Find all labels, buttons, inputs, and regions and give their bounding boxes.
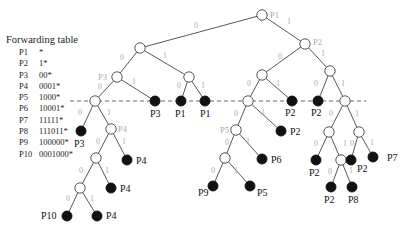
leaf-prefix-label: P3 — [74, 138, 85, 149]
leaf-prefix-label: P2 — [324, 194, 335, 205]
edge-bit-label: 0 — [79, 166, 83, 175]
edge-bit-label: 0 — [329, 109, 333, 118]
leaf-node-icon — [287, 96, 297, 106]
trie-edge — [262, 15, 305, 44]
leaf-node-icon — [208, 181, 218, 191]
stored-prefix-label: P1 — [270, 10, 279, 20]
leaf-prefix-label: P9 — [198, 187, 209, 198]
edge-bit-label: 1 — [122, 137, 126, 146]
internal-node-icon — [231, 125, 241, 135]
edge-bit-label: 1 — [276, 79, 280, 88]
edge-bit-label: 1 — [341, 79, 345, 88]
leaf-prefix-label: P1 — [175, 108, 186, 119]
leaf-node-icon — [276, 126, 286, 136]
internal-node-icon — [243, 96, 253, 106]
internal-node-icon — [106, 124, 116, 134]
edge-bit-label: 1 — [234, 166, 238, 175]
edge-bit-label: 1 — [105, 166, 109, 175]
edge-bit-label: 1 — [370, 138, 374, 147]
internal-node-icon — [324, 127, 334, 137]
edge-bit-label: 0 — [278, 52, 282, 61]
stored-prefix-label: P2 — [313, 37, 322, 47]
internal-node-icon — [91, 153, 101, 163]
leaf-node-icon — [347, 182, 357, 192]
leaf-node-icon — [62, 211, 72, 221]
leaf-prefix-label: P7 — [387, 152, 398, 163]
trie-edge — [117, 77, 155, 101]
trie-edge — [140, 15, 262, 48]
internal-node-icon — [75, 183, 85, 193]
edge-bit-label: 0 — [96, 137, 100, 146]
edge-bit-label: 0 — [350, 139, 354, 148]
leaf-node-icon — [150, 96, 160, 106]
edge-bit-labels: 010101010101010101010101010101010101 — [66, 17, 374, 203]
leaf-prefix-label: P4 — [120, 183, 131, 194]
edge-bit-label: 0 — [120, 53, 124, 62]
internal-node-icon — [300, 39, 310, 49]
leaf-prefix-label: P2 — [290, 126, 301, 137]
leaf-node-icon — [200, 96, 210, 106]
trie-edge — [262, 44, 305, 75]
internal-node-icon — [135, 43, 145, 53]
edge-bit-label: 0 — [314, 139, 318, 148]
edge-bit-label: 1 — [201, 81, 205, 90]
leaf-prefix-label: P2 — [311, 107, 322, 118]
edge-bit-label: 0 — [177, 81, 181, 90]
leaf-node-icon — [76, 126, 86, 136]
edge-bit-label: 1 — [349, 166, 353, 175]
prefix-labels: P1P2P3P3P1P1P3P4P4P4P10P4P2P2P5P2P6P9P5P… — [41, 10, 398, 221]
binary-trie-diagram: 010101010101010101010101010101010101 P1P… — [0, 0, 413, 226]
edge-bit-label: 1 — [163, 51, 167, 60]
edge-bit-label: 1 — [343, 139, 347, 148]
stored-prefix-label: P3 — [98, 72, 107, 82]
leaf-node-icon — [257, 154, 267, 164]
leaf-node-icon — [313, 96, 323, 106]
edge-bit-label: 1 — [107, 108, 111, 117]
edge-bit-label: 0 — [314, 79, 318, 88]
edge-bit-label: 1 — [321, 49, 325, 58]
leaf-prefix-label: P2 — [357, 163, 368, 174]
edge-bit-label: 0 — [211, 166, 215, 175]
leaf-prefix-label: P4 — [136, 155, 147, 166]
edge-bit-label: 0 — [328, 167, 332, 176]
edge-bit-label: 0 — [66, 194, 70, 203]
edge-bit-label: 0 — [234, 109, 238, 118]
leaf-node-icon — [122, 155, 132, 165]
edge-bit-label: 0 — [247, 79, 251, 88]
edge-bit-label: 1 — [287, 17, 291, 26]
internal-node-icon — [257, 70, 267, 80]
leaf-prefix-label: P1 — [200, 108, 211, 119]
leaf-node-icon — [346, 155, 356, 165]
leaf-node-icon — [92, 211, 102, 221]
leaf-prefix-label: P6 — [271, 154, 282, 165]
stored-prefix-label: P4 — [118, 124, 128, 134]
leaf-node-icon — [368, 152, 378, 162]
internal-node-icon — [112, 72, 122, 82]
leaf-prefix-label: P4 — [106, 210, 117, 221]
leaf-prefix-label: P3 — [150, 108, 161, 119]
edge-bit-label: 0 — [194, 21, 198, 30]
edge-bit-label: 0 — [225, 138, 229, 147]
leaf-prefix-label: P5 — [257, 187, 268, 198]
edge-bit-label: 0 — [78, 108, 82, 117]
internal-node-icon — [325, 66, 335, 76]
edge-bit-label: 0 — [98, 82, 102, 91]
leaf-prefix-label: P10 — [41, 210, 57, 221]
edge-bit-label: 1 — [246, 137, 250, 146]
leaf-node-icon — [311, 155, 321, 165]
leaf-prefix-label: P2 — [309, 167, 320, 178]
internal-node-icon — [220, 153, 230, 163]
leaf-node-icon — [106, 183, 116, 193]
stored-prefix-label: P5 — [220, 125, 229, 135]
leaf-node-icon — [326, 182, 336, 192]
internal-node-icon — [184, 72, 194, 82]
internal-node-icon — [257, 10, 267, 20]
internal-node-icon — [90, 96, 100, 106]
edge-bit-label: 1 — [132, 77, 136, 86]
internal-node-icon — [340, 96, 350, 106]
leaf-prefix-label: P8 — [348, 194, 359, 205]
leaf-node-icon — [245, 181, 255, 191]
internal-node-icon — [354, 127, 364, 137]
internal-node-icon — [336, 155, 346, 165]
edge-bit-label: 1 — [261, 108, 265, 117]
